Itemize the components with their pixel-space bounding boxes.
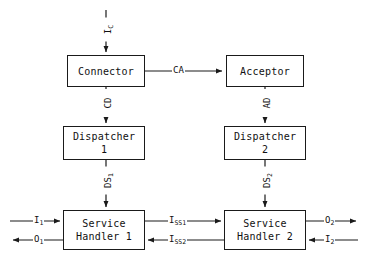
edge-label-ds1-text: DS bbox=[103, 177, 113, 188]
edge-label-iss1-sub: SS1 bbox=[174, 219, 186, 227]
node-service-handler-2-label-top: Service bbox=[243, 217, 287, 230]
node-service-handler-1-label-bottom: Handler 1 bbox=[76, 230, 132, 243]
node-dispatcher-2-index: 2 bbox=[262, 143, 268, 156]
node-acceptor-label: Acceptor bbox=[240, 65, 290, 78]
edge-label-ca-text: CA bbox=[173, 65, 184, 75]
io-label-o1: O1 bbox=[33, 234, 44, 245]
edge-label-ca: CA bbox=[172, 65, 185, 75]
edge-label-ds2: DS2 bbox=[262, 167, 273, 195]
edge-label-ad: AD bbox=[262, 89, 272, 117]
edge-label-ds1-sub: 1 bbox=[106, 173, 114, 177]
io-label-o2-sub: 2 bbox=[330, 219, 334, 227]
edge-label-iss2-sub: SS2 bbox=[174, 238, 186, 246]
node-service-handler-1-label-top: Service bbox=[82, 217, 126, 230]
node-service-handler-2[interactable]: Service Handler 2 bbox=[224, 210, 306, 250]
edge-label-iss1: ISS1 bbox=[168, 215, 187, 226]
node-acceptor[interactable]: Acceptor bbox=[226, 55, 304, 87]
node-connector-label: Connector bbox=[78, 65, 134, 78]
io-label-o1-sub: 1 bbox=[39, 238, 43, 246]
edge-label-cd: CD bbox=[103, 89, 113, 117]
io-label-i2: I2 bbox=[324, 234, 335, 245]
io-label-o2: O2 bbox=[324, 215, 335, 226]
edge-label-ds2-text: DS bbox=[262, 177, 272, 188]
io-label-i1-sub: 1 bbox=[39, 219, 43, 227]
io-label-i2-sub: 2 bbox=[330, 238, 334, 246]
node-dispatcher-2[interactable]: Dispatcher 2 bbox=[224, 126, 306, 160]
node-service-handler-2-label-bottom: Handler 2 bbox=[237, 230, 293, 243]
edge-label-input-c-sub: C bbox=[106, 25, 114, 29]
edge-label-ds1: DS1 bbox=[103, 167, 114, 195]
edge-label-ds2-sub: 2 bbox=[265, 173, 273, 177]
edge-label-ad-text: AD bbox=[262, 98, 272, 109]
node-dispatcher-1-index: 1 bbox=[101, 143, 107, 156]
node-dispatcher-2-label: Dispatcher bbox=[234, 130, 296, 143]
node-dispatcher-1[interactable]: Dispatcher 1 bbox=[63, 126, 145, 160]
diagram-canvas: Connector Acceptor Dispatcher 1 Dispatch… bbox=[0, 0, 368, 257]
node-connector[interactable]: Connector bbox=[67, 55, 145, 87]
node-service-handler-1[interactable]: Service Handler 1 bbox=[63, 210, 145, 250]
edge-label-cd-text: CD bbox=[103, 98, 113, 109]
io-label-i1: I1 bbox=[33, 215, 44, 226]
edge-label-input-c-text: I bbox=[103, 29, 113, 34]
edge-label-iss2: ISS2 bbox=[168, 234, 187, 245]
node-dispatcher-1-label: Dispatcher bbox=[73, 130, 135, 143]
edge-label-input-c: IC bbox=[103, 18, 114, 42]
